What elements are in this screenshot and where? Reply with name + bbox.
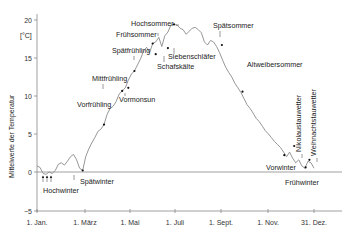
marker-dot [121, 90, 123, 92]
x-tick-dez: 31. Dez. [301, 219, 327, 226]
label-siebenschlaefer: Siebenschläfer [168, 52, 216, 61]
temperature-chart: 20 15 10 5 0 −5 [°C] Mittelwerte der Tem… [0, 0, 357, 241]
y-tick-20: 20 [24, 17, 32, 24]
label-vormonsun: Vormonsun [119, 95, 155, 104]
y-ticks [34, 20, 37, 211]
marker-dot [241, 91, 243, 93]
x-tick-sept: 1. Sept. [209, 219, 233, 227]
label-nikolaustauwetter: Nikolaustauwetter [294, 94, 303, 152]
label-schafskaelte: Schafskälte [157, 62, 194, 71]
label-vorfruehling: Vorfrühling [77, 100, 111, 109]
y-tick-minus5: −5 [24, 208, 32, 215]
x-tick-mai: 1. Mai [120, 219, 140, 226]
marker-dot [82, 169, 84, 171]
y-axis-title: Mittelwerte der Temperatur [8, 94, 16, 178]
label-altweibersommer: Altweibersommer [247, 60, 303, 69]
label-fruehsommer: Frühsommer [116, 30, 157, 39]
y-tick-15: 15 [24, 55, 32, 62]
y-tick-5: 5 [28, 131, 32, 138]
marker-dot [152, 42, 154, 44]
marker-dot [283, 154, 285, 156]
x-tick-labels: 1. Jan. 1. März 1. Mai 1. Juli 1. Sept. … [26, 219, 327, 227]
label-vorwinter: Vorwinter [266, 163, 297, 172]
label-hochsommer: Hochsommer [131, 19, 174, 28]
y-unit-label: [°C] [20, 32, 32, 40]
marker-dot [103, 124, 105, 126]
annotation-labels: Hochwinter Spätwinter Vorfrühling Mittfr… [43, 19, 320, 195]
label-hochwinter: Hochwinter [43, 186, 80, 195]
marker-dot [133, 70, 135, 72]
label-fruehwinter: Frühwinter [285, 178, 320, 187]
label-spaetsommer: Spätsommer [213, 21, 254, 30]
marker-dot [305, 166, 307, 168]
x-tick-jan: 1. Jan. [26, 219, 47, 226]
x-tick-nov: 1. Nov. [257, 219, 279, 226]
x-tick-juli: 1. Juli [166, 219, 185, 226]
label-spaetfruehling: Spätfrühling [112, 46, 150, 55]
y-tick-labels: 20 15 10 5 0 −5 [24, 17, 32, 215]
marker-dot [221, 44, 223, 46]
label-mittfruehling: Mittfrühling [92, 74, 127, 83]
y-tick-0: 0 [28, 169, 32, 176]
label-weihnachtstauwetter: Weihnachtstauwetter [309, 88, 318, 156]
label-spaetwinter: Spätwinter [80, 177, 115, 186]
marker-dot [167, 47, 169, 49]
marker-dot [308, 159, 310, 161]
x-tick-maerz: 1. März [73, 219, 97, 226]
y-tick-10: 10 [24, 93, 32, 100]
marker-dot [127, 87, 129, 89]
marker-dot [155, 53, 157, 55]
